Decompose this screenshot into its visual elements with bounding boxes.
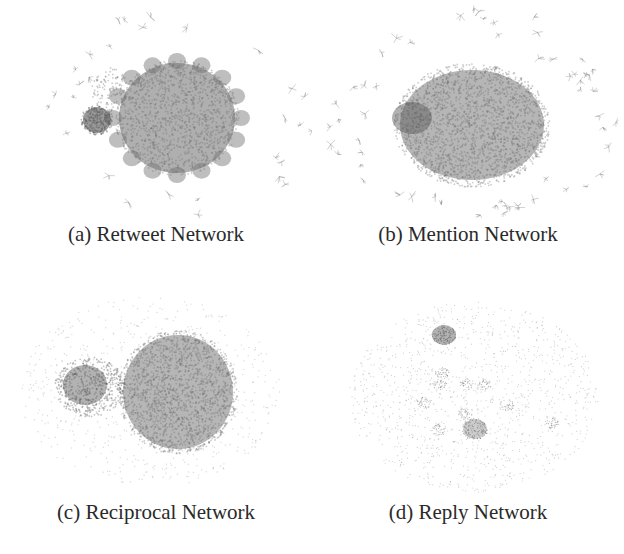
panel-reply-network: (d) Reply Network: [312, 277, 624, 554]
panel-mention-network: (b) Mention Network: [312, 0, 624, 277]
caption-reply: (d) Reply Network: [312, 500, 624, 525]
reply-network-graph: [312, 277, 624, 497]
caption-retweet: (a) Retweet Network: [0, 222, 312, 247]
panel-reciprocal-network: (c) Reciprocal Network: [0, 277, 312, 554]
caption-mention: (b) Mention Network: [312, 222, 624, 247]
reciprocal-network-graph: [0, 277, 312, 497]
retweet-network-graph: [0, 0, 312, 220]
caption-reciprocal: (c) Reciprocal Network: [0, 500, 312, 525]
panel-retweet-network: (a) Retweet Network: [0, 0, 312, 277]
mention-network-graph: [312, 0, 624, 220]
